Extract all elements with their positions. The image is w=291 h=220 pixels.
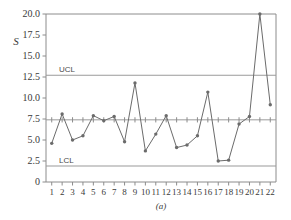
data-point-marker	[269, 103, 272, 106]
x-axis-tick-label: 8	[122, 187, 127, 197]
data-point-marker	[133, 81, 136, 84]
control-chart-figure: 02.55.07.510.012.515.017.520.0SUCLLCL123…	[0, 0, 291, 220]
data-point-marker	[165, 114, 168, 117]
x-axis-tick-label: 9	[133, 187, 138, 197]
figure-caption: (a)	[156, 201, 167, 211]
data-point-marker	[81, 134, 84, 137]
x-axis-tick-label: 10	[141, 187, 151, 197]
data-point-marker	[237, 122, 240, 125]
chart-svg: 02.55.07.510.012.515.017.520.0SUCLLCL123…	[0, 0, 291, 220]
x-axis-tick-label: 3	[70, 187, 75, 197]
data-point-marker	[71, 138, 74, 141]
x-axis-tick-label: 20	[245, 187, 255, 197]
series-line	[52, 14, 271, 161]
y-axis-tick-label: 12.5	[23, 71, 41, 82]
x-axis-tick-label: 1	[49, 187, 54, 197]
data-point-marker	[112, 115, 115, 118]
x-axis-tick-label: 14	[183, 187, 193, 197]
data-point-marker	[217, 159, 220, 162]
x-axis-tick-label: 7	[112, 187, 117, 197]
x-axis-tick-label: 17	[214, 187, 224, 197]
x-axis-tick-label: 2	[60, 187, 65, 197]
y-axis-title: S	[13, 35, 19, 47]
x-axis-tick-label: 16	[203, 187, 213, 197]
x-axis-tick-label: 11	[151, 187, 160, 197]
y-axis-tick-label: 10.0	[23, 92, 41, 103]
data-point-marker	[123, 140, 126, 143]
lcl-label: LCL	[59, 156, 74, 165]
data-point-marker	[50, 142, 53, 145]
x-axis-tick-label: 5	[91, 187, 96, 197]
y-axis-tick-label: 20.0	[23, 8, 41, 19]
data-point-marker	[144, 149, 147, 152]
x-axis-tick-label: 6	[102, 187, 107, 197]
x-axis-tick-label: 21	[255, 187, 264, 197]
x-axis-tick-label: 12	[162, 187, 171, 197]
y-axis-tick-label: 2.5	[28, 155, 41, 166]
data-point-marker	[227, 158, 230, 161]
data-point-marker	[185, 143, 188, 146]
data-point-marker	[154, 132, 157, 135]
data-point-marker	[175, 146, 178, 149]
ucl-label: UCL	[59, 65, 76, 74]
data-point-marker	[248, 115, 251, 118]
y-axis-tick-label: 5.0	[28, 134, 41, 145]
x-axis-tick-label: 13	[172, 187, 182, 197]
data-point-marker	[92, 114, 95, 117]
x-axis-tick-label: 18	[224, 187, 234, 197]
y-axis-tick-label: 7.5	[28, 113, 41, 124]
x-axis-tick-label: 19	[235, 187, 245, 197]
data-point-marker	[102, 119, 105, 122]
data-point-marker	[60, 112, 63, 115]
y-axis-tick-label: 17.5	[23, 29, 41, 40]
data-point-marker	[206, 90, 209, 93]
y-axis-tick-label: 15.0	[23, 50, 41, 61]
data-point-marker	[196, 134, 199, 137]
y-axis-tick-label: 0	[35, 176, 40, 187]
x-axis-tick-label: 4	[81, 187, 86, 197]
x-axis-tick-label: 15	[193, 187, 203, 197]
data-point-marker	[258, 12, 261, 15]
x-axis-tick-label: 22	[266, 187, 275, 197]
